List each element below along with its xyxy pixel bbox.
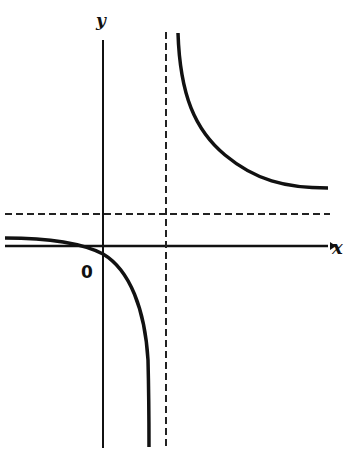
y-axis-label: y	[95, 10, 107, 30]
function-graph: y x 0	[0, 0, 348, 454]
lower-left-branch	[5, 238, 149, 447]
origin-label: 0	[81, 262, 93, 282]
x-axis-label: x	[331, 237, 343, 258]
upper-right-branch	[178, 33, 328, 188]
